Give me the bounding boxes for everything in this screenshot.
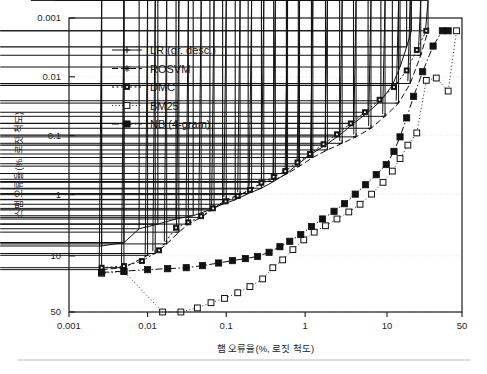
y-tick-label: 0.001 bbox=[37, 12, 61, 23]
legend-item-bm25[interactable]: BM25 bbox=[112, 100, 179, 112]
x-axis-title: 햄 오류율(%, 로짓 척도) bbox=[217, 343, 314, 354]
x-tick-label: 0.1 bbox=[220, 320, 233, 331]
chart-canvas: 0.0010.010.1110500.0010.010.111050햄 오류율(… bbox=[0, 0, 487, 374]
gridlines bbox=[69, 18, 462, 312]
y-tick-label: 0.1 bbox=[48, 130, 61, 141]
legend-label: LR (gr. desc.) bbox=[150, 44, 216, 56]
x-tick-label: 50 bbox=[457, 320, 468, 331]
x-tick-label: 0.01 bbox=[138, 320, 157, 331]
legend-item-dmc[interactable]: DMC bbox=[112, 81, 175, 93]
y-tick-label: 10 bbox=[50, 250, 61, 261]
legend-label: BM25 bbox=[150, 100, 179, 112]
x-tick-label: 0.001 bbox=[57, 320, 81, 331]
legend-item-lr-gr-desc[interactable]: LR (gr. desc.) bbox=[112, 44, 216, 56]
x-tick-label: 1 bbox=[302, 320, 307, 331]
x-axis: 0.0010.010.111050 bbox=[57, 312, 467, 331]
x-tick-label: 10 bbox=[382, 320, 393, 331]
y-tick-label: 0.01 bbox=[43, 71, 62, 82]
y-axis-title: 스팸 오류율(%, 로짓 척도) bbox=[13, 112, 24, 218]
plot-frame bbox=[69, 18, 462, 312]
y-tick-label: 50 bbox=[50, 306, 61, 317]
legend-label: DMC bbox=[150, 81, 175, 93]
legend-label: ROSVM bbox=[150, 63, 190, 75]
y-tick-label: 1 bbox=[56, 189, 61, 200]
legend-label: NB (4-gram) bbox=[150, 118, 211, 130]
roc-chart-figure: 0.0010.010.1110500.0010.010.111050햄 오류율(… bbox=[0, 0, 487, 374]
